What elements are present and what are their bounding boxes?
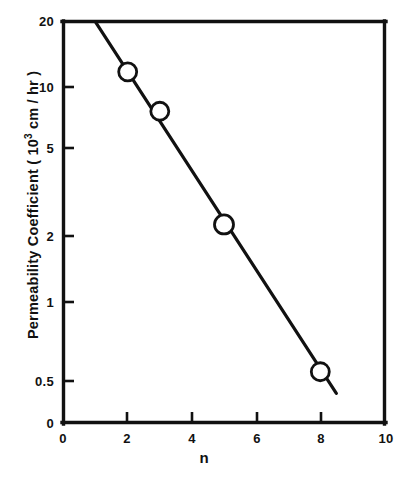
data-point	[119, 63, 137, 81]
y-tick-label-0point5: 0.5	[8, 374, 54, 389]
x-tick-label-6: 6	[240, 431, 274, 446]
chart-plot-area	[0, 0, 408, 482]
y-tick-label-0: 0	[14, 416, 54, 431]
x-tick-label-8: 8	[304, 431, 338, 446]
x-tick-label-2: 2	[110, 431, 144, 446]
x-axis-ticks	[127, 412, 321, 422]
data-point	[215, 215, 234, 234]
chart-figure: 20 10 5 2 1 0.5 0 0 2 4 6 8 10 Permeabil…	[0, 0, 408, 482]
y-axis-title-exponent: 3	[23, 133, 34, 139]
x-axis-title: n	[0, 449, 408, 466]
data-point	[311, 363, 329, 381]
y-axis-title: Permeability Coefficient ( 103 cm / hr )	[23, 55, 41, 355]
y-tick-label-20: 20	[14, 14, 54, 29]
x-tick-label-10: 10	[369, 431, 403, 446]
y-axis-title-prefix: Permeability Coefficient ( 10	[25, 139, 41, 339]
data-point	[151, 102, 169, 120]
x-tick-label-4: 4	[175, 431, 209, 446]
y-axis-title-suffix: cm / hr )	[25, 71, 41, 133]
y-axis-ticks	[64, 87, 74, 381]
x-tick-label-0: 0	[46, 431, 80, 446]
